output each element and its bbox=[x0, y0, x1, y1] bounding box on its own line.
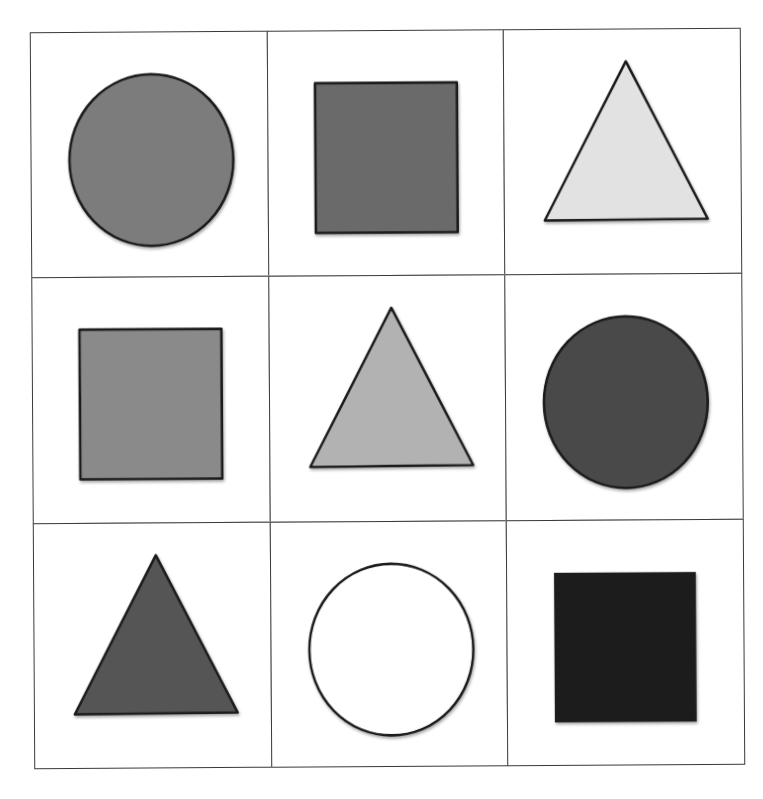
triangle-shape-icon bbox=[34, 522, 271, 768]
grid-cell-r0-c2 bbox=[503, 28, 742, 276]
grid-cell-r1-c2 bbox=[505, 273, 744, 521]
grid-cell-r2-c1 bbox=[269, 520, 508, 768]
square-shape-icon bbox=[32, 277, 269, 523]
circle bbox=[544, 316, 709, 489]
circle bbox=[309, 563, 474, 736]
shape-grid bbox=[30, 28, 744, 768]
triangle-shape-icon bbox=[269, 276, 506, 522]
triangle-shape-icon bbox=[504, 29, 741, 275]
square-shape-icon bbox=[267, 30, 504, 276]
square-shape-icon bbox=[507, 519, 744, 765]
grid-cell-r2-c0 bbox=[33, 521, 272, 769]
square bbox=[315, 82, 458, 232]
triangle bbox=[309, 308, 473, 468]
triangle bbox=[544, 61, 708, 221]
grid-cell-r1-c1 bbox=[268, 275, 507, 523]
circle-shape-icon bbox=[506, 274, 743, 520]
grid-cell-r1-c0 bbox=[31, 276, 270, 524]
circle bbox=[69, 74, 234, 247]
circle-shape-icon bbox=[31, 32, 268, 278]
square bbox=[80, 329, 223, 479]
square bbox=[554, 572, 697, 722]
grid-cell-r2-c2 bbox=[506, 518, 745, 766]
triangle bbox=[74, 554, 238, 714]
circle-shape-icon bbox=[270, 521, 507, 767]
grid-cell-r0-c1 bbox=[266, 29, 505, 277]
grid-cell-r0-c0 bbox=[30, 31, 269, 279]
